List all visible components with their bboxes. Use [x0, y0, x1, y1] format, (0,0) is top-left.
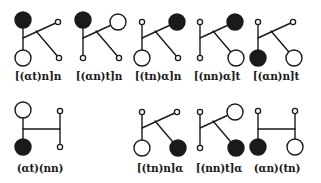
- diagram-canvas: [0, 0, 321, 183]
- lower-right-open-node-icon: [228, 50, 244, 66]
- left-bottom-filled-node-icon: [15, 139, 31, 155]
- diagram-h1: [15, 102, 63, 155]
- left-top-small-node-icon: [255, 108, 260, 113]
- top-small-node-icon: [139, 109, 144, 114]
- bottom-small-node-icon: [197, 145, 202, 150]
- label-k3: [(tn)α]n: [135, 70, 181, 82]
- right-bottom-open-node-icon: [287, 139, 303, 155]
- diagram-k5: [250, 19, 302, 66]
- left-bottom-filled-node-icon: [250, 139, 266, 155]
- diagram-k6: [134, 109, 186, 156]
- diagram-k3: [134, 14, 185, 66]
- lower-right-small-node-icon: [116, 55, 121, 60]
- right-bottom-small-node-icon: [57, 144, 62, 149]
- upper-right-open-node-icon: [110, 14, 126, 30]
- lower-right-open-node-icon: [286, 50, 302, 66]
- top-small-node-icon: [197, 109, 202, 114]
- edge: [36, 31, 59, 58]
- label-k4: [(nn)α]t: [194, 70, 240, 82]
- right-top-small-node-icon: [57, 108, 62, 113]
- label-k1: [(αt)n]n: [15, 70, 61, 82]
- bottom-small-node-icon: [197, 55, 202, 60]
- label-k7: [(nn)t]α: [196, 162, 242, 174]
- upper-right-small-node-icon: [55, 19, 60, 24]
- diagram-k2: [75, 12, 126, 61]
- bottom-filled-node-icon: [250, 50, 266, 66]
- label-k5: [(αn)n]t: [253, 70, 299, 82]
- right-top-small-node-icon: [292, 108, 297, 113]
- top-small-node-icon: [139, 19, 144, 24]
- bottom-open-node-icon: [15, 50, 31, 66]
- edge: [96, 31, 119, 58]
- top-filled-node-icon: [15, 12, 31, 28]
- left-top-open-node-icon: [15, 102, 31, 118]
- bottom-small-node-icon: [80, 55, 85, 60]
- diagram-k7: [197, 104, 244, 156]
- label-k6: [(tn)n]α: [137, 162, 183, 174]
- bottom-open-node-icon: [134, 140, 150, 156]
- top-small-node-icon: [255, 19, 260, 24]
- lower-right-small-node-icon: [175, 55, 180, 60]
- label-h2: (αn)(tn): [254, 162, 300, 174]
- lower-right-filled-node-icon: [228, 140, 244, 156]
- top-filled-node-icon: [75, 12, 91, 28]
- diagram-k1: [15, 12, 62, 66]
- upper-right-filled-node-icon: [227, 14, 243, 30]
- upper-right-open-node-icon: [227, 104, 243, 120]
- label-h1: (αt)(nn): [17, 162, 63, 174]
- top-small-node-icon: [197, 19, 202, 24]
- upper-right-small-node-icon: [174, 109, 179, 114]
- lower-right-filled-node-icon: [170, 140, 186, 156]
- label-k2: [(αn)t]n: [76, 70, 122, 82]
- diagram-k4: [197, 14, 244, 66]
- diagram-h2: [250, 108, 303, 155]
- upper-right-filled-node-icon: [169, 14, 185, 30]
- lower-right-small-node-icon: [56, 55, 61, 60]
- upper-right-small-node-icon: [290, 19, 295, 24]
- bottom-open-node-icon: [134, 50, 150, 66]
- edge: [155, 31, 178, 58]
